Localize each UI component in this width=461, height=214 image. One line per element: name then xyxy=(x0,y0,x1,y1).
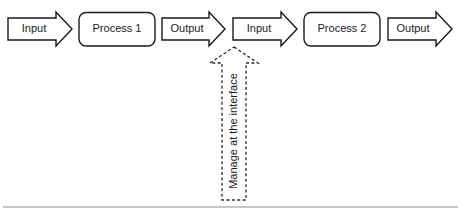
diagram-canvas: Input Process 1 Output Input Process 2 O… xyxy=(0,0,461,214)
flow-arrow-input-2: Input xyxy=(233,12,297,46)
flow-arrow-input-1: Input xyxy=(8,12,72,46)
process-box-1-label: Process 1 xyxy=(93,22,142,34)
flow-arrow-input-2-label: Input xyxy=(247,22,271,34)
manage-interface-callout-label: Manage at the interface xyxy=(227,73,239,189)
flow-arrow-output-2-label: Output xyxy=(396,22,429,34)
manage-interface-callout-arrow: Manage at the interface xyxy=(210,47,258,200)
process-box-2-label: Process 2 xyxy=(318,22,367,34)
process-box-1: Process 1 xyxy=(79,13,155,47)
flow-arrow-output-2: Output xyxy=(388,12,452,46)
flow-arrow-input-1-label: Input xyxy=(22,22,46,34)
process-box-2: Process 2 xyxy=(304,13,380,47)
flow-arrow-output-1: Output xyxy=(162,12,225,46)
flow-arrow-output-1-label: Output xyxy=(170,22,203,34)
